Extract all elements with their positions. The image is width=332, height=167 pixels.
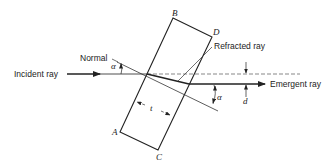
emergent-ray-label: Emergent ray <box>270 80 321 89</box>
t-dimension-right <box>161 111 170 115</box>
thickness-label: t <box>150 104 153 113</box>
corner-d-label: D <box>213 28 220 37</box>
alpha-top-label: α <box>111 62 116 71</box>
t-dimension-left <box>137 102 145 105</box>
corner-c-label: C <box>156 153 162 162</box>
refracted-ray-label: Refracted ray <box>214 42 265 51</box>
alpha-bottom-label: α <box>217 93 222 102</box>
displacement-label: d <box>243 97 248 106</box>
normal-label: Normal <box>80 54 107 63</box>
normal-line <box>117 62 218 111</box>
incident-ray-label: Incident ray <box>14 70 58 79</box>
corner-b-label: B <box>172 9 178 18</box>
refracted-ray <box>147 74 189 84</box>
refracted-leader <box>178 47 212 81</box>
corner-a-label: A <box>112 128 118 137</box>
